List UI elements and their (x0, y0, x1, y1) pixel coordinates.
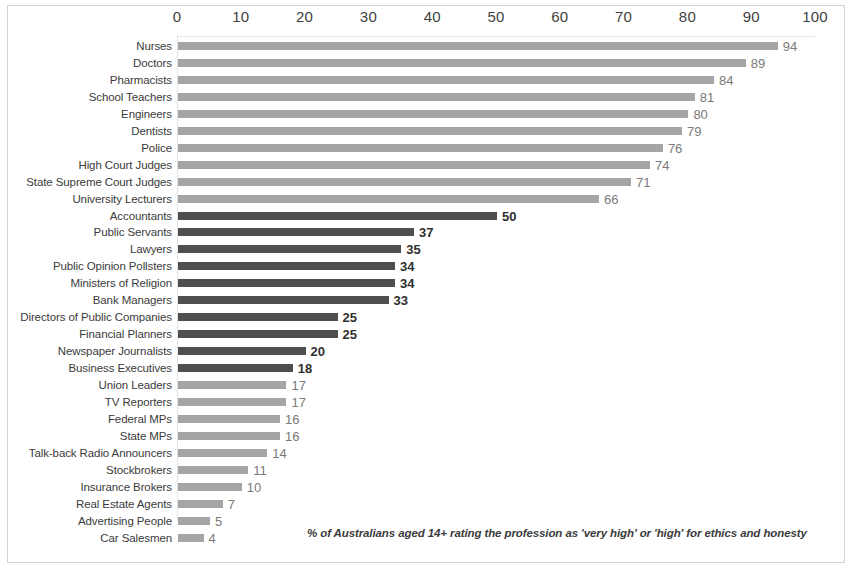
bar (178, 347, 306, 355)
bar-row: State MPs16 (0, 428, 854, 445)
bar-row: High Court Judges74 (0, 157, 854, 174)
bar-row: Newspaper Journalists20 (0, 343, 854, 360)
bar-value-label: 14 (272, 445, 286, 462)
category-label: Talk-back Radio Announcers (29, 445, 172, 462)
x-axis-tick-20: 20 (275, 8, 335, 25)
bar (178, 313, 338, 321)
x-axis-tick-labels: 0102030405060708090100 (0, 8, 854, 30)
x-axis-tick-70: 70 (594, 8, 654, 25)
category-label: State Supreme Court Judges (26, 174, 172, 191)
bar (178, 245, 401, 253)
category-label: Federal MPs (108, 411, 172, 428)
bar (178, 262, 395, 270)
bar-value-label: 50 (502, 208, 516, 225)
bar (178, 144, 663, 152)
bar (178, 279, 395, 287)
bar-value-label: 81 (700, 89, 714, 106)
bar (178, 76, 714, 84)
bar-row: Dentists79 (0, 123, 854, 140)
category-label: Pharmacists (110, 72, 172, 89)
bar (178, 212, 497, 220)
bar-row: Lawyers35 (0, 241, 854, 258)
category-label: Dentists (131, 123, 172, 140)
bar-row: University Lecturers66 (0, 191, 854, 208)
bar-row: Ministers of Religion34 (0, 275, 854, 292)
bar-row: Doctors89 (0, 55, 854, 72)
x-axis-tick-10: 10 (211, 8, 271, 25)
x-axis-tick-40: 40 (402, 8, 462, 25)
bar (178, 415, 280, 423)
category-label: High Court Judges (78, 157, 172, 174)
category-label: Stockbrokers (106, 462, 172, 479)
bar-value-label: 34 (400, 258, 414, 275)
bar (178, 195, 599, 203)
bar-value-label: 20 (311, 343, 325, 360)
bar-row: Public Servants37 (0, 224, 854, 241)
category-label: Public Servants (94, 224, 172, 241)
category-label: Financial Planners (79, 326, 172, 343)
category-label: Lawyers (130, 241, 172, 258)
bar (178, 127, 682, 135)
x-axis-tick-80: 80 (657, 8, 717, 25)
bar (178, 330, 338, 338)
bar-value-label: 94 (783, 38, 797, 55)
category-label: Police (141, 140, 172, 157)
bar-value-label: 71 (636, 174, 650, 191)
x-axis-tick-100: 100 (785, 8, 845, 25)
bar-value-label: 16 (285, 411, 299, 428)
bar-value-label: 7 (228, 496, 235, 513)
bar-row: Public Opinion Pollsters34 (0, 258, 854, 275)
bar-value-label: 33 (394, 292, 408, 309)
category-label: Directors of Public Companies (20, 309, 172, 326)
category-label: Insurance Brokers (80, 479, 172, 496)
bar (178, 534, 204, 542)
bar-row: Business Executives18 (0, 360, 854, 377)
category-label: School Teachers (89, 89, 172, 106)
category-label: Accountants (110, 208, 172, 225)
bar-row: Directors of Public Companies25 (0, 309, 854, 326)
bar-value-label: 84 (719, 72, 733, 89)
chart-footnote: % of Australians aged 14+ rating the pro… (307, 527, 807, 539)
category-label: State MPs (120, 428, 172, 445)
plot-area: Nurses94Doctors89Pharmacists84School Tea… (0, 33, 854, 523)
bar-value-label: 89 (751, 55, 765, 72)
bar (178, 381, 286, 389)
bar (178, 500, 223, 508)
bar-value-label: 17 (291, 377, 305, 394)
bar-row: Accountants50 (0, 208, 854, 225)
bar-row: TV Reporters17 (0, 394, 854, 411)
bar (178, 93, 695, 101)
bar-value-label: 80 (693, 106, 707, 123)
bar-row: Bank Managers33 (0, 292, 854, 309)
x-axis-tick-60: 60 (530, 8, 590, 25)
bar-row: Talk-back Radio Announcers14 (0, 445, 854, 462)
bar-value-label: 4 (209, 530, 216, 547)
category-label: Nurses (136, 38, 172, 55)
bar-row: Police76 (0, 140, 854, 157)
bar-row: Financial Planners25 (0, 326, 854, 343)
bar-value-label: 16 (285, 428, 299, 445)
bar-row: Stockbrokers11 (0, 462, 854, 479)
category-label: Union Leaders (98, 377, 172, 394)
bar-row: School Teachers81 (0, 89, 854, 106)
bar-value-label: 37 (419, 224, 433, 241)
bar-row: State Supreme Court Judges71 (0, 174, 854, 191)
bar-value-label: 34 (400, 275, 414, 292)
category-label: Advertising People (78, 513, 172, 530)
bar-value-label: 74 (655, 157, 669, 174)
bar-value-label: 35 (406, 241, 420, 258)
category-label: Doctors (133, 55, 172, 72)
x-axis-tick-0: 0 (147, 8, 207, 25)
bar (178, 517, 210, 525)
bar (178, 110, 688, 118)
bar (178, 42, 778, 50)
category-label: Newspaper Journalists (58, 343, 172, 360)
bar-value-label: 11 (253, 462, 267, 479)
category-label: Business Executives (68, 360, 172, 377)
bar (178, 364, 293, 372)
bar-value-label: 79 (687, 123, 701, 140)
bar (178, 296, 389, 304)
bar-row: Insurance Brokers10 (0, 479, 854, 496)
category-label: Ministers of Religion (71, 275, 172, 292)
bar (178, 432, 280, 440)
